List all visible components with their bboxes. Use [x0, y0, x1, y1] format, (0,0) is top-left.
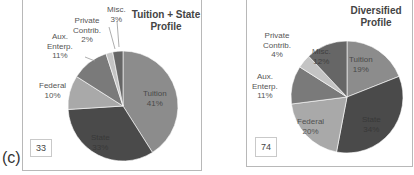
label-private-contrib: Private Contrib. 4%	[263, 31, 291, 60]
label-aux-enterp: Aux. Enterp. 11%	[252, 72, 278, 101]
label-aux-enterp: Aux. Enterp. 11%	[47, 32, 73, 61]
label-federal: Federal 20%	[297, 117, 324, 136]
label-tuition: Tuition 19%	[349, 55, 373, 74]
title-line: Tuition + State	[131, 9, 201, 21]
pie-slices	[291, 41, 403, 153]
chart-panel-diversified: Diversified Profile 74 Private Contrib. …	[246, 0, 413, 167]
title-line: Profile	[131, 21, 201, 33]
figure-label: (c)	[2, 149, 21, 167]
label-federal: Federal 10%	[39, 81, 66, 100]
number-box: 74	[255, 137, 277, 157]
chart-title: Diversified Profile	[341, 5, 411, 29]
label-state: State 33%	[91, 133, 110, 152]
chart-panel-tuition-state: Tuition + State Profile 33 Misc. 3% Priv…	[22, 0, 202, 171]
label-misc: Misc. 3%	[107, 5, 126, 24]
label-private-contrib: Private Contrib. 2%	[73, 16, 101, 45]
label-tuition: Tuition 41%	[143, 89, 167, 108]
label-misc: Misc. 12%	[312, 47, 331, 66]
number-box: 33	[30, 139, 52, 157]
label-state: State 34%	[362, 115, 381, 134]
chart-title: Tuition + State Profile	[131, 9, 201, 33]
